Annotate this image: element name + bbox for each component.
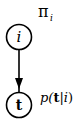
conditional-prefix: p( — [40, 90, 54, 105]
conditional-suffix: ) — [68, 90, 73, 105]
conditional-label: p(t|i) — [40, 90, 73, 105]
arrowhead-icon — [15, 78, 23, 89]
node-t-label: t — [16, 97, 23, 113]
graphical-model-diagram: π i i t p(t|i) — [0, 0, 83, 126]
edge-i-to-t — [15, 50, 23, 92]
node-i: i — [7, 25, 32, 50]
prior-subscript: i — [50, 13, 53, 23]
prior-symbol: π — [38, 2, 49, 21]
node-i-label: i — [17, 28, 22, 46]
node-t: t — [7, 93, 32, 118]
prior-label: π i — [38, 2, 53, 23]
